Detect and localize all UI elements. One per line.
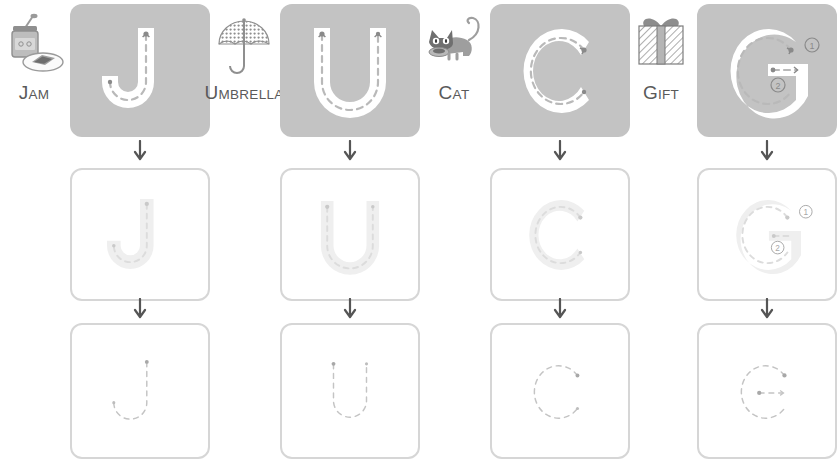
row-3-card-u[interactable]	[280, 323, 420, 459]
row-2-card-c[interactable]	[490, 168, 630, 301]
letter-c-path	[492, 325, 628, 457]
down-arrow-g-2	[759, 298, 775, 320]
down-arrow-c-1	[552, 140, 568, 162]
down-arrow-u-1	[342, 140, 358, 162]
letter-j-path	[72, 325, 208, 457]
letter-u-path	[282, 325, 418, 457]
row-2-card-u[interactable]	[280, 168, 420, 301]
letter-column-u: UMBRELLA	[210, 0, 420, 464]
stroke-number-1: 1	[809, 41, 814, 51]
word-block-jam: JAM	[0, 4, 68, 104]
word-label-jam: JAM	[19, 82, 50, 104]
row-1-card-c[interactable]	[490, 4, 630, 137]
cat-icon	[423, 12, 485, 80]
row-3-card-c[interactable]	[490, 323, 630, 459]
letter-u-solid	[280, 4, 420, 137]
letter-g-path	[699, 325, 835, 457]
down-arrow-j-2	[132, 298, 148, 320]
letter-j-ghost	[72, 170, 208, 299]
worksheet-sheet: JAM	[0, 0, 837, 464]
word-block-umbrella: UMBRELLA	[196, 4, 292, 104]
stroke-number-2: 2	[775, 81, 780, 91]
row-2-card-g[interactable]: 1 2	[697, 168, 837, 301]
row-1-card-u[interactable]	[280, 4, 420, 137]
word-label-umbrella: UMBRELLA	[204, 82, 283, 104]
letter-u-ghost	[282, 170, 418, 299]
row-1-card-g[interactable]: 1 2	[697, 4, 837, 137]
word-block-cat: CAT	[420, 4, 488, 104]
word-label-cat: CAT	[439, 82, 470, 104]
word-block-gift: GIFT	[627, 4, 695, 104]
row-3-card-j[interactable]	[70, 323, 210, 459]
down-arrow-c-2	[552, 298, 568, 320]
letter-g-ghost: 1 2	[699, 170, 835, 299]
letter-column-g: GIFT 1 2	[627, 0, 837, 464]
row-1-card-j[interactable]	[70, 4, 210, 137]
letter-column-c: CAT	[420, 0, 630, 464]
stroke-number-2: 2	[775, 244, 780, 253]
umbrella-icon	[213, 12, 275, 80]
down-arrow-j-1	[132, 140, 148, 162]
letter-c-solid	[490, 4, 630, 137]
letter-j-solid	[70, 4, 210, 137]
down-arrow-u-2	[342, 298, 358, 320]
row-2-card-j[interactable]	[70, 168, 210, 301]
letter-g-solid: 1 2	[697, 4, 837, 137]
jam-jar-and-toast-icon	[3, 12, 65, 80]
stroke-number-1: 1	[804, 208, 809, 217]
letter-c-ghost	[492, 170, 628, 299]
word-label-gift: GIFT	[643, 82, 679, 104]
down-arrow-g-1	[759, 140, 775, 162]
gift-box-icon	[630, 12, 692, 80]
row-3-card-g[interactable]	[697, 323, 837, 459]
letter-column-j: JAM	[0, 0, 210, 464]
